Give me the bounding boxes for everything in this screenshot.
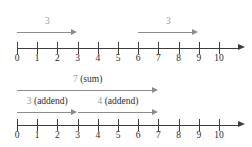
axis-tick-label: 10: [210, 53, 228, 64]
axis-tick-label: 5: [109, 130, 127, 141]
diagram-top: 33 012345678910: [0, 0, 252, 68]
axis-tick-label: 1: [28, 53, 46, 64]
axis-tick-label: 3: [69, 53, 87, 64]
axis-tick-label: 2: [48, 130, 66, 141]
diagram-bottom: 7 (sum)3 (addend)4 (addend) 012345678910: [0, 68, 252, 147]
axis-tick-label: 8: [170, 53, 188, 64]
measure-label-word: (addend): [102, 96, 138, 106]
axis-tick-label: 1: [28, 130, 46, 141]
measure-arrow-rule: [78, 112, 153, 113]
axis-tick-label: 9: [190, 130, 208, 141]
axis-tick-label: 7: [149, 130, 167, 141]
measure-label-word: (addend): [32, 96, 68, 106]
measure-arrowhead-icon: [71, 29, 77, 35]
number-line-top: 012345678910: [0, 38, 252, 68]
axis-tick-label: 6: [129, 53, 147, 64]
axis-arrowhead-icon: [238, 44, 245, 50]
measure-arrowhead-icon: [71, 109, 77, 115]
axis-tick-label: 0: [8, 130, 26, 141]
axis-tick-label: 7: [149, 53, 167, 64]
measure-arrow-rule: [138, 32, 193, 33]
axis-line: [17, 125, 239, 126]
measure-arrow-label: 4 (addend): [78, 96, 159, 107]
axis-arrowhead-icon: [238, 121, 245, 127]
axis-tick-label: 3: [69, 130, 87, 141]
measure-arrow: 7 (sum): [17, 82, 158, 94]
axis-tick-label: 5: [109, 53, 127, 64]
axis-tick-label: 4: [89, 53, 107, 64]
measure-arrowhead-icon: [152, 109, 158, 115]
number-line-figure: 33 012345678910 7 (sum)3 (addend)4 (adde…: [0, 0, 252, 147]
measure-arrow: 3: [138, 24, 199, 36]
measure-arrow-label: 3: [17, 16, 78, 27]
axis-tick-label: 2: [48, 53, 66, 64]
measure-arrow-rule: [17, 90, 152, 91]
measure-arrow-rule: [17, 32, 72, 33]
measure-arrow-label: 3: [138, 16, 199, 27]
axis-tick-label: 0: [8, 53, 26, 64]
axis-tick-label: 9: [190, 53, 208, 64]
measure-arrow: 3: [17, 24, 78, 36]
axis-line: [17, 48, 239, 49]
axis-tick-label: 8: [170, 130, 188, 141]
measure-label-number: 3: [166, 16, 171, 26]
measure-arrow-label: 7 (sum): [17, 74, 158, 85]
number-line-bottom: 012345678910: [0, 115, 252, 145]
measure-label-word: (sum): [78, 74, 103, 84]
axis-tick-label: 4: [89, 130, 107, 141]
measure-arrow-label: 3 (addend): [17, 96, 78, 107]
axis-tick-label: 10: [210, 130, 228, 141]
measure-label-number: 3: [45, 16, 50, 26]
measure-arrow-rule: [17, 112, 72, 113]
axis-tick-label: 6: [129, 130, 147, 141]
measure-arrowhead-icon: [152, 87, 158, 93]
measure-arrowhead-icon: [192, 29, 198, 35]
